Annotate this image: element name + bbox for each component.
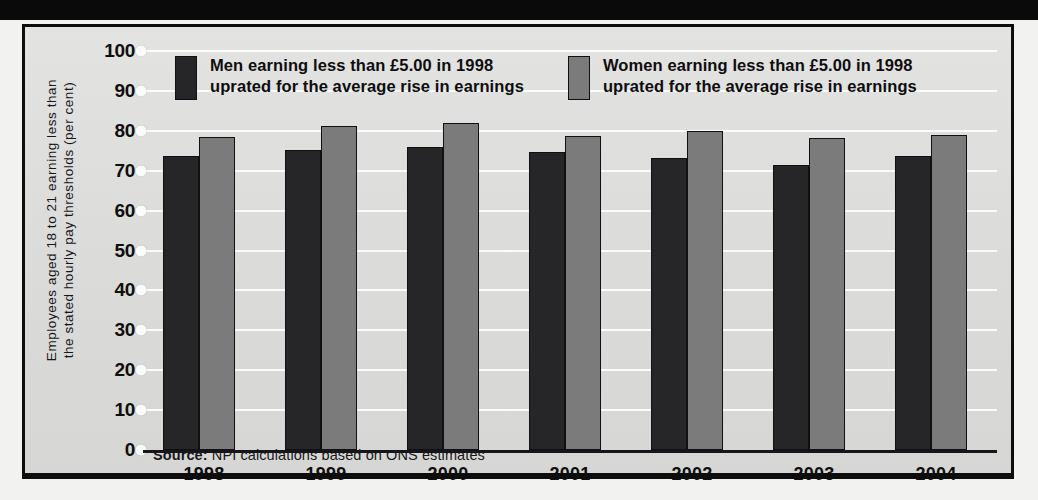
y-axis-tick-labels: 1009080706050403020100 bbox=[83, 27, 135, 473]
bar-men-2003 bbox=[773, 165, 809, 450]
y-tick-100: 100 bbox=[83, 40, 135, 62]
plot-area bbox=[143, 51, 997, 450]
bar-women-2000 bbox=[443, 123, 479, 450]
x-tick-2000: 2000 bbox=[387, 464, 509, 485]
y-axis-label: Employees aged 18 to 21 earning less tha… bbox=[43, 25, 77, 415]
bar-men-2001 bbox=[529, 152, 565, 450]
y-tick-70: 70 bbox=[83, 160, 135, 182]
y-tick-40: 40 bbox=[83, 279, 135, 301]
bar-men-2000 bbox=[407, 147, 443, 450]
y-tick-90: 90 bbox=[83, 80, 135, 102]
bar-men-2002 bbox=[651, 158, 687, 450]
source-prefix: Source: bbox=[153, 447, 208, 463]
bar-women-1998 bbox=[199, 137, 235, 450]
legend-item-women: Women earning less than £5.00 in 1998 up… bbox=[568, 55, 917, 100]
legend-item-men: Men earning less than £5.00 in 1998 upra… bbox=[175, 55, 524, 100]
bar-women-2001 bbox=[565, 136, 601, 450]
source-text: NPI calculations based on ONS estimates bbox=[208, 447, 485, 463]
chart-legend: Men earning less than £5.00 in 1998 upra… bbox=[175, 55, 917, 100]
bar-women-2004 bbox=[931, 135, 967, 450]
y-tick-50: 50 bbox=[83, 240, 135, 262]
bar-women-2003 bbox=[809, 138, 845, 450]
y-tick-0: 0 bbox=[83, 439, 135, 461]
x-tick-1998: 1998 bbox=[143, 464, 265, 485]
legend-label-women: Women earning less than £5.00 in 1998 up… bbox=[603, 55, 917, 97]
y-tick-60: 60 bbox=[83, 200, 135, 222]
x-tick-2004: 2004 bbox=[875, 464, 997, 485]
bar-men-2004 bbox=[895, 156, 931, 450]
y-tick-80: 80 bbox=[83, 120, 135, 142]
y-tick-20: 20 bbox=[83, 359, 135, 381]
x-tick-2002: 2002 bbox=[631, 464, 753, 485]
bar-women-1999 bbox=[321, 126, 357, 450]
chart-page: Employees aged 18 to 21 earning less tha… bbox=[0, 0, 1038, 500]
bar-men-1999 bbox=[285, 150, 321, 450]
bar-men-1998 bbox=[163, 156, 199, 450]
page-top-black-band bbox=[0, 0, 1038, 20]
y-tick-30: 30 bbox=[83, 319, 135, 341]
x-tick-2001: 2001 bbox=[509, 464, 631, 485]
chart-frame: Employees aged 18 to 21 earning less tha… bbox=[22, 24, 1014, 476]
legend-label-men: Men earning less than £5.00 in 1998 upra… bbox=[210, 55, 524, 97]
source-note: Source: NPI calculations based on ONS es… bbox=[153, 447, 485, 463]
y-tick-10: 10 bbox=[83, 399, 135, 421]
legend-swatch-women-icon bbox=[568, 56, 590, 100]
x-tick-1999: 1999 bbox=[265, 464, 387, 485]
bar-women-2002 bbox=[687, 131, 723, 450]
x-tick-2003: 2003 bbox=[753, 464, 875, 485]
legend-swatch-men-icon bbox=[175, 56, 197, 100]
